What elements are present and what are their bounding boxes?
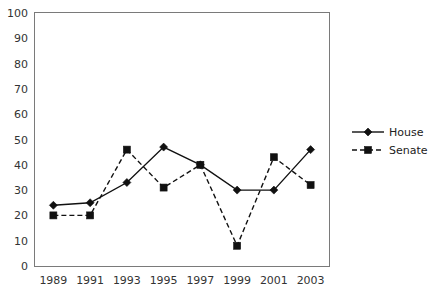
- data-point-senate-1991: [87, 212, 94, 219]
- legend-label-senate: Senate: [389, 144, 428, 157]
- y-tick-label: 10: [14, 235, 28, 248]
- data-point-senate-1995: [160, 184, 167, 191]
- x-tick-label: 2001: [260, 274, 288, 287]
- y-tick-label: 50: [14, 134, 28, 147]
- x-tick-label: 1995: [150, 274, 178, 287]
- y-tick-label: 20: [14, 209, 28, 222]
- y-tick-label: 40: [14, 159, 28, 172]
- y-tick-label: 30: [14, 184, 28, 197]
- y-tick-label: 70: [14, 83, 28, 96]
- data-point-senate-2001: [270, 154, 277, 161]
- x-tick-label: 1993: [113, 274, 141, 287]
- data-point-senate-1999: [234, 242, 241, 249]
- legend-label-house: House: [389, 126, 424, 139]
- data-point-senate-1997: [197, 161, 204, 168]
- y-tick-label: 100: [7, 7, 28, 20]
- y-tick-label: 0: [21, 260, 28, 273]
- y-tick-label: 60: [14, 108, 28, 121]
- x-tick-label: 1991: [76, 274, 104, 287]
- data-point-senate-1993: [123, 146, 130, 153]
- line-chart-figure: 0102030405060708090100 19891991199319951…: [0, 0, 431, 296]
- data-point-senate-1989: [50, 212, 57, 219]
- legend-marker-square-icon: [365, 147, 372, 154]
- y-tick-label: 80: [14, 58, 28, 71]
- x-tick-label: 2003: [297, 274, 325, 287]
- x-tick-label: 1997: [186, 274, 214, 287]
- data-point-senate-2003: [307, 182, 314, 189]
- x-tick-label: 1989: [39, 274, 67, 287]
- y-tick-label: 90: [14, 32, 28, 45]
- x-tick-label: 1999: [223, 274, 251, 287]
- chart-container: 0102030405060708090100 19891991199319951…: [0, 0, 431, 296]
- plot-frame: [35, 13, 330, 267]
